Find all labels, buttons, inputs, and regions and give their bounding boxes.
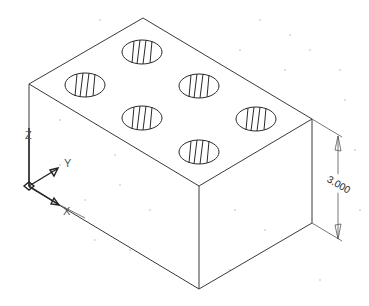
x-axis	[29, 186, 58, 204]
height-dimension[interactable]: 3.000	[312, 119, 354, 241]
y-arrow-icon	[50, 168, 58, 176]
bottom-right-edge	[199, 223, 312, 289]
y-axis	[29, 169, 57, 186]
z-axis-label: Z	[25, 129, 32, 141]
hole-1[interactable]	[122, 40, 162, 64]
top-face[interactable]	[29, 18, 312, 186]
drawing-svg: 3.000 Z Y X	[0, 0, 369, 306]
hole-2[interactable]	[65, 73, 105, 97]
hole-3[interactable]	[179, 74, 219, 98]
y-axis-label: Y	[64, 157, 72, 169]
hole-5[interactable]	[236, 107, 276, 131]
hole-6[interactable]	[179, 140, 219, 164]
holes	[65, 40, 276, 164]
extension-line-top	[312, 119, 342, 137]
block-body[interactable]	[29, 18, 312, 289]
hole-4[interactable]	[122, 106, 162, 130]
ucs-icon: Z Y X	[24, 128, 85, 218]
x-axis-label: X	[63, 205, 71, 217]
cad-viewport[interactable]: 3.000 Z Y X	[0, 0, 369, 306]
